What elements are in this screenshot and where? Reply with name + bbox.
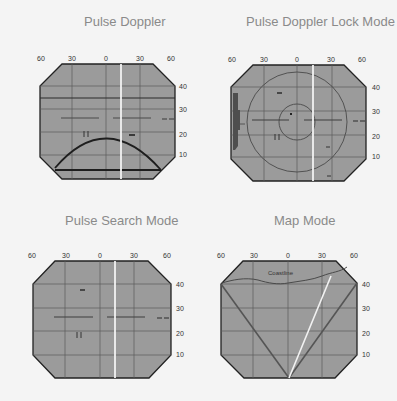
right-label: 20 bbox=[372, 133, 380, 140]
right-label: 10 bbox=[362, 351, 370, 358]
right-label: 30 bbox=[362, 305, 370, 312]
right-label: 40 bbox=[372, 84, 380, 91]
top-label: 0 bbox=[286, 252, 290, 259]
top-label: 60 bbox=[167, 55, 175, 62]
top-label: 30 bbox=[68, 55, 76, 62]
top-label: 30 bbox=[130, 252, 138, 259]
right-label: 10 bbox=[176, 351, 184, 358]
top-label: 30 bbox=[260, 56, 268, 63]
right-label: 20 bbox=[362, 330, 370, 337]
right-label: 10 bbox=[372, 153, 380, 160]
right-label: 40 bbox=[176, 281, 184, 288]
top-label: 0 bbox=[104, 55, 108, 62]
right-label: 40 bbox=[179, 83, 187, 90]
top-label: 60 bbox=[37, 55, 45, 62]
scope-pulse-doppler-lock-mode: 60 30 0 30 60 40 30 20 10 bbox=[228, 56, 380, 181]
right-label: 30 bbox=[176, 305, 184, 312]
right-label: 30 bbox=[372, 108, 380, 115]
right-label: 40 bbox=[362, 281, 370, 288]
right-label: 20 bbox=[176, 330, 184, 337]
top-label: 60 bbox=[28, 252, 36, 259]
top-label: 0 bbox=[98, 252, 102, 259]
scope-pulse-search-mode: 60 30 0 30 60 40 30 20 10 bbox=[28, 252, 184, 378]
top-label: 60 bbox=[217, 252, 225, 259]
top-label: 60 bbox=[163, 252, 171, 259]
right-label: 30 bbox=[179, 106, 187, 113]
scope-pulse-doppler: 60 30 0 30 60 40 30 20 10 bbox=[37, 55, 187, 179]
top-label: 30 bbox=[250, 252, 258, 259]
top-label: 0 bbox=[295, 56, 299, 63]
coastline-label: Coastline bbox=[268, 270, 294, 276]
top-label: 60 bbox=[358, 56, 366, 63]
right-label: 10 bbox=[179, 151, 187, 158]
scope-map-mode: Coastline 60 30 0 30 60 40 30 20 10 bbox=[217, 252, 370, 378]
top-label: 30 bbox=[327, 56, 335, 63]
radar-diagram-canvas: 60 30 0 30 60 40 30 20 10 bbox=[0, 0, 397, 401]
top-label: 60 bbox=[228, 56, 236, 63]
top-label: 30 bbox=[62, 252, 70, 259]
right-label: 20 bbox=[179, 131, 187, 138]
top-label: 30 bbox=[318, 252, 326, 259]
top-label: 30 bbox=[136, 55, 144, 62]
top-label: 60 bbox=[350, 252, 358, 259]
